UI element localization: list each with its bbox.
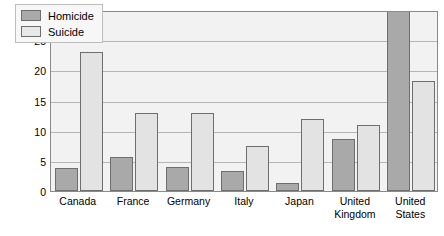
x-tick-label-line: States [383, 208, 438, 221]
x-tick-label-line: Germany [161, 195, 216, 208]
plot-area [50, 11, 438, 192]
x-tick-label-italy: Italy [216, 195, 271, 208]
bars-layer [51, 12, 437, 191]
y-tick-label: 5 [22, 157, 46, 167]
bar-chart: Deaths per 1,000 men aged 15–24 05101520… [0, 0, 444, 236]
legend: HomicideSuicide [15, 4, 103, 43]
bar-homicide-canada[interactable] [55, 168, 78, 191]
x-tick-label-france: France [105, 195, 160, 208]
bar-homicide-germany[interactable] [166, 167, 189, 191]
bar-homicide-united-kingdom[interactable] [332, 139, 355, 191]
x-tick-label-germany: Germany [161, 195, 216, 208]
bar-group [221, 12, 269, 191]
legend-swatch-homicide-icon [21, 10, 41, 21]
y-tick-label: 10 [22, 127, 46, 137]
x-tick-label-line: Japan [272, 195, 327, 208]
x-tick-label-japan: Japan [272, 195, 327, 208]
y-tick-label: 0 [22, 187, 46, 197]
bar-suicide-japan[interactable] [301, 119, 324, 191]
bar-suicide-united-kingdom[interactable] [357, 125, 380, 191]
bar-suicide-united-states[interactable] [412, 81, 435, 191]
bar-suicide-germany[interactable] [191, 113, 214, 191]
bar-homicide-united-states[interactable] [387, 11, 410, 191]
legend-label: Homicide [48, 10, 94, 22]
x-axis-tick-labels: CanadaFranceGermanyItalyJapanUnitedKingd… [50, 195, 438, 235]
x-tick-label-line: Kingdom [327, 208, 382, 221]
bar-group [166, 12, 214, 191]
legend-item-homicide[interactable]: Homicide [21, 9, 94, 22]
x-tick-label-line: Canada [50, 195, 105, 208]
bar-suicide-italy[interactable] [246, 146, 269, 191]
x-tick-label-line: United [327, 195, 382, 208]
legend-swatch-suicide-icon [21, 26, 41, 37]
bar-group [276, 12, 324, 191]
bar-suicide-canada[interactable] [80, 52, 103, 191]
y-tick-label: 20 [22, 66, 46, 76]
bar-group [332, 12, 380, 191]
x-tick-label-united-states: UnitedStates [383, 195, 438, 220]
x-tick-label-line: France [105, 195, 160, 208]
x-tick-label-line: Italy [216, 195, 271, 208]
y-tick-label: 15 [22, 97, 46, 107]
legend-item-suicide[interactable]: Suicide [21, 25, 94, 38]
bar-homicide-japan[interactable] [276, 183, 299, 191]
x-tick-label-canada: Canada [50, 195, 105, 208]
bar-group [110, 12, 158, 191]
bar-homicide-france[interactable] [110, 157, 133, 191]
bar-group [387, 12, 435, 191]
x-tick-label-united-kingdom: UnitedKingdom [327, 195, 382, 220]
bar-suicide-france[interactable] [135, 113, 158, 191]
x-tick-label-line: United [383, 195, 438, 208]
legend-label: Suicide [48, 26, 84, 38]
bar-homicide-italy[interactable] [221, 171, 244, 191]
